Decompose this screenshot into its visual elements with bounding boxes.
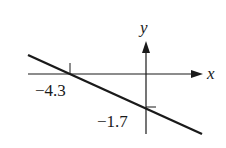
y-axis-arrowhead-icon: [142, 41, 150, 53]
y-axis-label: y: [138, 18, 148, 37]
x-axis-label: x: [206, 64, 215, 83]
y-intercept-label: −1.7: [97, 112, 128, 131]
x-intercept-label: −4.3: [35, 81, 66, 100]
graph: y x −4.3 −1.7: [0, 0, 226, 148]
x-axis-arrowhead-icon: [191, 70, 203, 78]
